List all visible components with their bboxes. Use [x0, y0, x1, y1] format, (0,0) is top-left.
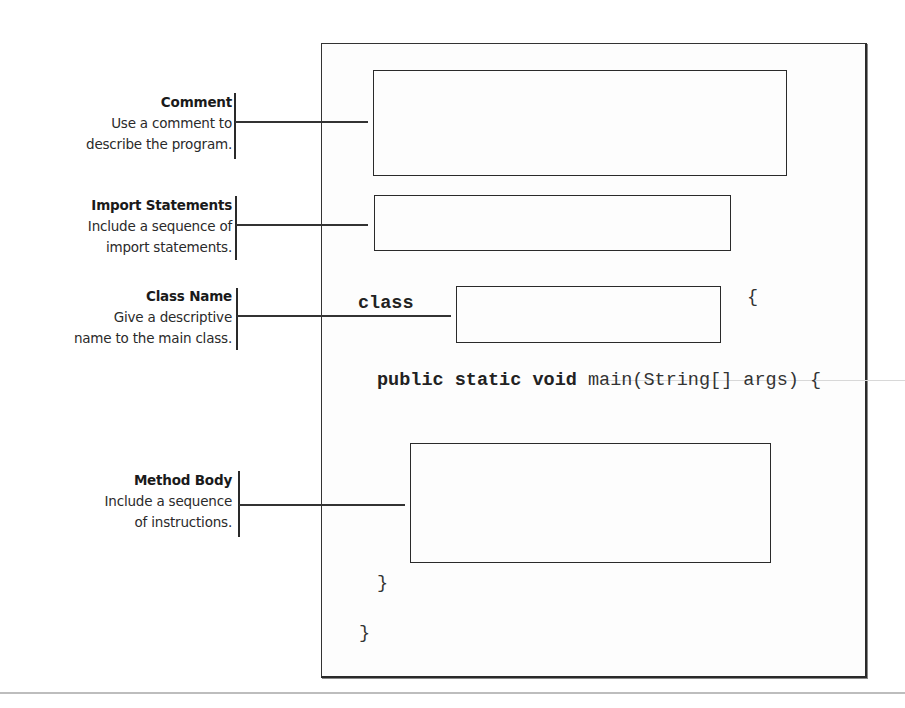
annotation-class: Class Name Give a descriptive name to th…: [74, 286, 232, 349]
annotation-bracket: [235, 196, 237, 260]
method-body-slot: [410, 443, 771, 563]
class-name-slot: [456, 286, 721, 343]
connector-line-class: [237, 315, 451, 317]
annotation-method: Method Body Include a sequence of instru…: [105, 470, 232, 533]
annotation-line: Include a sequence: [105, 491, 232, 512]
comment-slot: [373, 70, 787, 176]
main-method-signature: public static void main(String[] args) {: [377, 370, 821, 392]
annotation-line: describe the program.: [86, 134, 232, 155]
method-modifiers: public static void: [377, 370, 577, 391]
class-close-brace: }: [359, 623, 370, 645]
annotation-line: of instructions.: [105, 512, 232, 533]
annotation-bracket: [236, 288, 238, 350]
annotation-comment: Comment Use a comment to describe the pr…: [86, 92, 232, 155]
annotation-title: Method Body: [105, 470, 232, 491]
connector-line-import: [236, 224, 368, 226]
class-open-brace: {: [747, 287, 758, 309]
connector-line-comment: [235, 121, 368, 123]
annotation-line: import statements.: [88, 237, 232, 258]
annotation-import: Import Statements Include a sequence of …: [88, 195, 232, 258]
annotation-line: Use a comment to: [86, 113, 232, 134]
annotation-title: Comment: [86, 92, 232, 113]
annotation-line: name to the main class.: [74, 328, 232, 349]
annotation-title: Import Statements: [88, 195, 232, 216]
import-slot: [374, 195, 731, 251]
annotation-line: Include a sequence of: [88, 216, 232, 237]
class-keyword: class: [358, 293, 414, 315]
connector-line-method: [239, 504, 405, 506]
annotation-title: Class Name: [74, 286, 232, 307]
annotation-line: Give a descriptive: [74, 307, 232, 328]
page-rule: [0, 692, 905, 694]
method-name: main(String[] args) {: [577, 370, 821, 391]
method-close-brace: }: [377, 573, 388, 595]
annotation-bracket: [234, 93, 236, 159]
